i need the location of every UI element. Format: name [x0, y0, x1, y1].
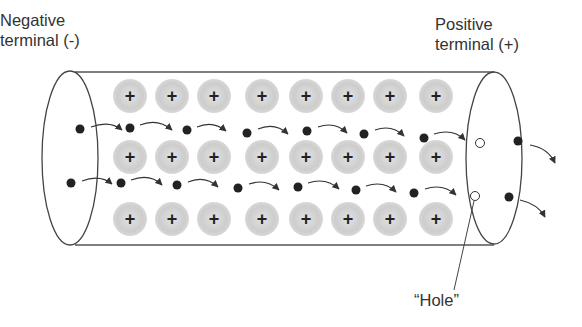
electron — [117, 179, 126, 188]
electron — [352, 186, 361, 195]
electron — [514, 137, 523, 146]
electron — [183, 126, 192, 135]
electron — [67, 179, 76, 188]
electron — [173, 181, 182, 190]
plus-icon: + — [385, 86, 396, 106]
flow-arrow-icon — [366, 184, 396, 192]
electron — [294, 183, 303, 192]
plus-icon: + — [431, 86, 442, 106]
electron — [243, 129, 252, 138]
plus-icon: + — [209, 86, 220, 106]
flow-arrow-icon — [249, 182, 279, 190]
electron — [410, 189, 419, 198]
electron — [303, 127, 312, 136]
hole — [471, 192, 480, 201]
flow-arrow-icon — [197, 124, 226, 131]
exit-arrow-icon — [530, 145, 555, 163]
plus-icon: + — [301, 147, 312, 167]
plus-icon: + — [209, 209, 220, 229]
flow-arrow-icon — [318, 125, 347, 133]
electron — [420, 134, 429, 143]
plus-icon: + — [209, 147, 220, 167]
plus-icon: + — [301, 209, 312, 229]
electron — [76, 125, 85, 134]
flow-arrow-icon — [308, 181, 339, 189]
flow-arrow-icon — [140, 122, 172, 130]
plus-icon: + — [385, 209, 396, 229]
plus-icon: + — [167, 147, 178, 167]
plus-icon: + — [125, 147, 136, 167]
positive-end-ellipse — [466, 72, 522, 244]
ion-row-3: + + + + + + + + — [113, 202, 453, 236]
hole — [476, 139, 485, 148]
flow-arrow-icon — [258, 126, 288, 134]
ion-row-2: + + + + + + + + — [113, 140, 453, 174]
plus-icon: + — [257, 86, 268, 106]
electron — [234, 184, 243, 193]
flow-arrow-icon — [434, 132, 465, 140]
exit-arrow-icon — [520, 200, 545, 217]
electron — [126, 124, 135, 133]
electron — [505, 193, 514, 202]
plus-icon: + — [431, 209, 442, 229]
electron — [360, 130, 369, 139]
plus-icon: + — [431, 147, 442, 167]
plus-icon: + — [167, 209, 178, 229]
plus-icon: + — [343, 86, 354, 106]
plus-icon: + — [125, 86, 136, 106]
conductor-diagram: + + + + + + + + + + + + + + + + + + + + … — [0, 0, 582, 327]
plus-icon: + — [167, 86, 178, 106]
flow-arrow-icon — [375, 128, 404, 136]
plus-icon: + — [257, 209, 268, 229]
plus-icon: + — [257, 147, 268, 167]
flow-arrow-icon — [188, 179, 218, 187]
plus-icon: + — [343, 147, 354, 167]
plus-icon: + — [385, 147, 396, 167]
plus-icon: + — [301, 86, 312, 106]
flow-arrow-icon — [131, 177, 162, 185]
plus-icon: + — [343, 209, 354, 229]
flow-arrow-icon — [425, 187, 456, 195]
negative-end-ellipse — [42, 71, 98, 245]
plus-icon: + — [125, 209, 136, 229]
positive-ion-lattice: + + + + + + + + + + + + + + + + + + + + … — [113, 79, 453, 236]
ion-row-1: + + + + + + + + — [113, 79, 453, 113]
